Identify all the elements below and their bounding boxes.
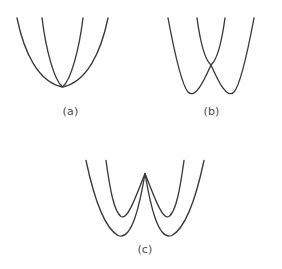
panel-c-outer-double-well [86, 161, 204, 237]
panel-b-label: (b) [141, 105, 282, 118]
figure-root: (a) (b) (c) [0, 0, 282, 269]
panel-c-label: (c) [60, 243, 230, 256]
panel-c-inner-double-well [106, 161, 184, 217]
panel-a-label: (a) [0, 105, 141, 118]
panel-b-narrow-parabola [197, 18, 225, 65]
panel-a-narrow-parabola [42, 18, 83, 87]
panel-b-double-well-curve [168, 18, 254, 94]
panel-a-wide-parabola [17, 18, 108, 87]
